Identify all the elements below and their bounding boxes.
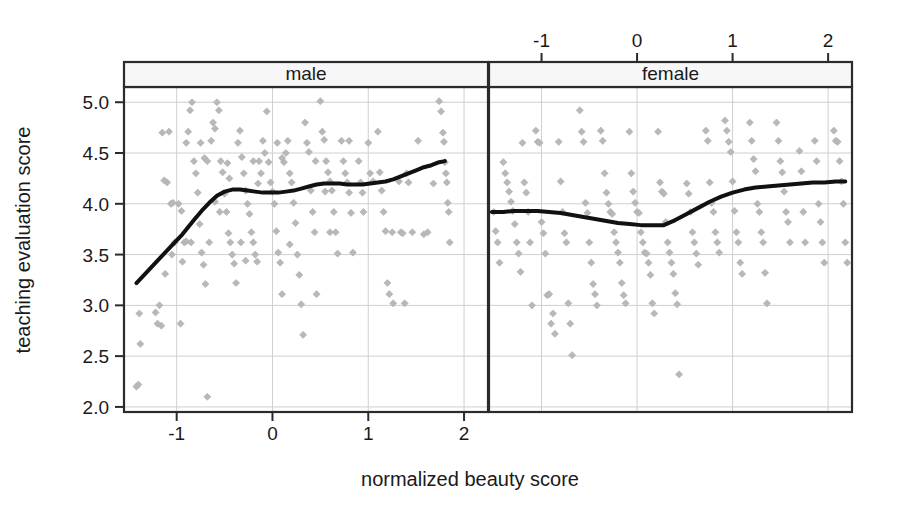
panel-strip-label-female: female (642, 63, 699, 84)
y-tick-label: 4.5 (83, 143, 109, 164)
x-tick-label-bottom: 2 (459, 423, 470, 444)
trellis-scatter-plot: malefemale 2.02.53.03.54.04.55.0-1012-10… (0, 0, 897, 512)
y-tick-label: 5.0 (83, 92, 109, 113)
x-tick-label-top: 0 (632, 30, 643, 51)
y-tick-label: 4.0 (83, 194, 109, 215)
y-axis-title: teaching evaluation score (12, 127, 34, 354)
x-tick-label-bottom: 0 (267, 423, 278, 444)
y-tick-label: 3.0 (83, 295, 109, 316)
x-tick-label-bottom: -1 (168, 423, 185, 444)
panel-strips: malefemale (124, 62, 852, 87)
y-tick-label: 2.5 (83, 346, 109, 367)
x-axis-title: normalized beauty score (361, 468, 579, 490)
y-tick-label: 2.0 (83, 397, 109, 418)
x-tick-label-top: 2 (823, 30, 834, 51)
x-tick-label-bottom: 1 (363, 423, 374, 444)
x-tick-label-top: -1 (533, 30, 550, 51)
chart-figure: malefemale 2.02.53.03.54.04.55.0-1012-10… (0, 0, 897, 512)
y-tick-label: 3.5 (83, 245, 109, 266)
panel-strip-label-male: male (285, 63, 326, 84)
x-tick-label-top: 1 (727, 30, 738, 51)
